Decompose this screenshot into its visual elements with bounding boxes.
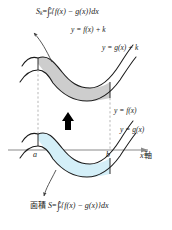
- bottom-formula: 面積S=∫ba{f(x) − g(x)}dx: [30, 200, 108, 212]
- x-axis-label: x軸: [140, 152, 152, 160]
- diagram-canvas: [0, 0, 172, 230]
- curve-label-f-plus-k: y = f(x) + k: [71, 26, 106, 34]
- lower-leader-arrow: [44, 170, 56, 196]
- integral-sign-bottom: ∫: [57, 200, 60, 212]
- bottom-formula-body: {f(x) − g(x)}dx: [61, 201, 108, 210]
- x-axis-label-kanji: 軸: [144, 151, 152, 160]
- bottom-formula-prefix: 面積: [30, 201, 46, 210]
- upper-region: [38, 57, 110, 101]
- curve-label-f: y = f(x): [114, 107, 137, 115]
- tick-label-b: b: [106, 151, 110, 159]
- curve-label-g: y = g(x): [120, 126, 144, 134]
- curve-label-g-plus-k: y = g(x) + k: [102, 44, 138, 52]
- title-formula-body: {f(x) − g(x)}dx: [52, 7, 99, 16]
- bottom-formula-eq: =: [52, 201, 57, 210]
- lower-region: [38, 133, 110, 177]
- integral-sign-top: ∫: [47, 6, 50, 18]
- curve-f: [22, 121, 133, 164]
- translate-arrow-icon: [62, 112, 74, 130]
- tick-label-a: a: [33, 151, 37, 159]
- title-formula: Sk=∫ba{f(x) − g(x)}dx: [36, 6, 99, 18]
- title-formula-eq: =: [42, 7, 47, 16]
- integral-area-diagram: Sk=∫ba{f(x) − g(x)}dx y = f(x) + k y = g…: [0, 0, 172, 230]
